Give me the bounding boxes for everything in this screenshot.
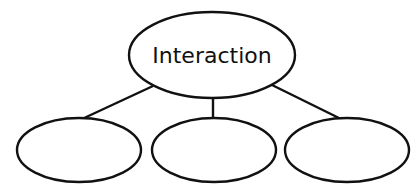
child-node-middle xyxy=(152,118,276,182)
edge-root-to-left xyxy=(82,86,153,119)
concept-map: Interaction xyxy=(0,0,419,187)
child-node-right xyxy=(285,118,409,182)
root-node-label: Interaction xyxy=(152,43,271,68)
child-node-left xyxy=(17,118,141,182)
edge-root-to-right xyxy=(272,85,341,119)
